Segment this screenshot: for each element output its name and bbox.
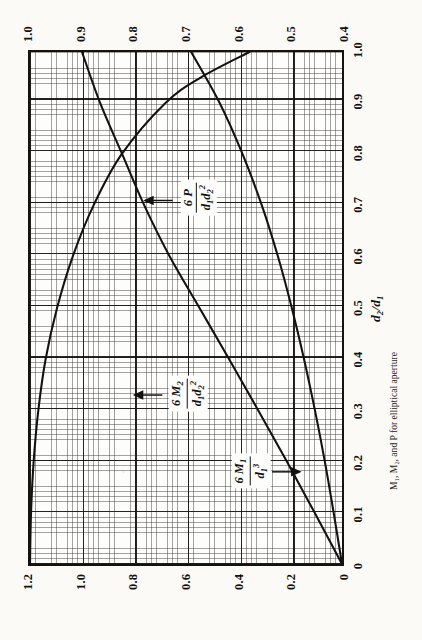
x-tick-label: 0.6 [351, 248, 366, 264]
x-axis-title: d₂/d₁ [368, 295, 384, 322]
plot-frame: 6 M2 d1d22 6 P d1d22 6 M1 d13 [28, 50, 344, 566]
x-tick-label: 0.2 [351, 455, 366, 471]
y-right-tick-label: 0.5 [284, 26, 299, 42]
curve-2 [30, 52, 249, 564]
y-right-tick-label: 1.0 [21, 26, 36, 42]
plot-area: 6 M2 d1d22 6 P d1d22 6 M1 d13 00.10.20.3… [28, 50, 344, 566]
curve-label-6m1: 6 M1 d13 [232, 454, 271, 489]
curve-arrow-head [292, 468, 300, 475]
x-tick-label: 1.0 [351, 42, 366, 58]
y-left-tick-label: 0 [337, 574, 352, 580]
y-left-tick-label: 1.2 [21, 574, 36, 590]
x-tick-label: 0.9 [351, 94, 366, 110]
curve-arrow-head [135, 391, 143, 398]
x-tick-label: 0 [351, 563, 366, 569]
y-left-tick-label: 0.6 [179, 574, 194, 590]
y-left-tick-label: 0.2 [284, 574, 299, 590]
x-tick-label: 0.1 [351, 506, 366, 522]
curve-0 [82, 52, 342, 564]
y-right-tick-label: 0.8 [126, 26, 141, 42]
y-right-tick-label: 0.7 [179, 26, 194, 42]
y-right-tick-label: 0.6 [231, 26, 246, 42]
x-tick-label: 0.4 [351, 352, 366, 368]
y-right-tick-label: 0.4 [337, 26, 352, 42]
figure-stage: 6 M2 d1d22 6 P d1d22 6 M1 d13 00.10.20.3… [0, 0, 422, 640]
figure-caption: M₁, M₂, and P for elliptical aperture [388, 352, 399, 490]
y-right-tick-label: 0.9 [73, 26, 88, 42]
curve-arrow-head [145, 197, 153, 204]
x-tick-label: 0.7 [351, 197, 366, 213]
y-left-tick-label: 0.8 [126, 574, 141, 590]
x-tick-label: 0.3 [351, 403, 366, 419]
curve-label-6p: 6 P d1d22 [180, 180, 216, 215]
y-left-tick-label: 0.4 [231, 574, 246, 590]
x-tick-label: 0.8 [351, 145, 366, 161]
curve-label-6m2: 6 M2 d1d22 [169, 376, 208, 411]
x-tick-label: 0.5 [351, 300, 366, 316]
y-left-tick-label: 1.0 [73, 574, 88, 590]
curve-layer [30, 52, 342, 564]
